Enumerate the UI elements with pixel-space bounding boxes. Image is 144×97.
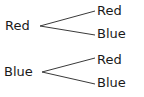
tree-node-child-red-2: Red	[97, 53, 122, 67]
tree-node-child-red-1: Red	[97, 4, 122, 18]
tree-diagram: Red Blue Red Blue Red Blue	[0, 0, 144, 97]
branch-blue-red	[42, 58, 95, 72]
branch-blue-blue	[42, 72, 95, 84]
branch-red-red	[40, 11, 95, 26]
tree-node-parent-red: Red	[5, 19, 30, 33]
branch-red-blue	[40, 26, 95, 35]
tree-node-child-blue-2: Blue	[97, 76, 126, 90]
tree-node-child-blue-1: Blue	[97, 27, 126, 41]
tree-node-parent-blue: Blue	[4, 65, 33, 79]
